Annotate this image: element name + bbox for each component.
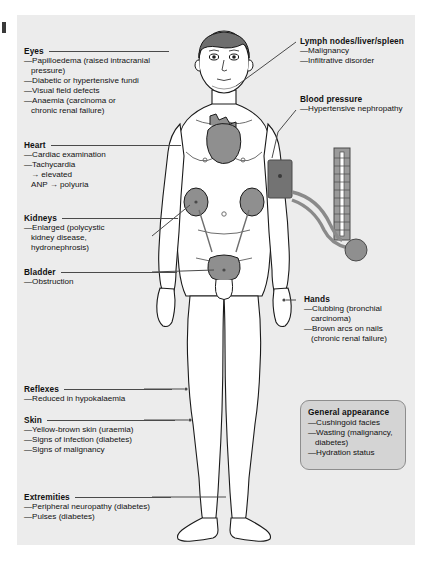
section-blood-pressure: Blood pressure —Hypertensive nephropathy bbox=[300, 94, 429, 114]
heart-item-1: —Tachycardia bbox=[24, 160, 204, 170]
extremities-title: Extremities bbox=[24, 492, 70, 502]
eyes-item-1: pressure) bbox=[24, 66, 204, 76]
kidneys-title: Kidneys bbox=[24, 213, 57, 223]
blood-pressure-title: Blood pressure bbox=[300, 94, 429, 104]
extremities-item-1: —Pulses (diabetes) bbox=[24, 512, 224, 522]
lymph-item-0: —Malignancy bbox=[300, 46, 429, 56]
heart-rule bbox=[51, 145, 181, 146]
kidneys-item-2: hydronephrosis) bbox=[24, 243, 204, 253]
hands-item-3: (chronic renal failure) bbox=[304, 334, 429, 344]
eyes-item-0: —Papilloedema (raised intracranial bbox=[24, 56, 204, 66]
section-hands: Hands —Clubbing (bronchial carcinoma) —B… bbox=[304, 294, 429, 344]
eyes-item-5: chronic renal failure) bbox=[24, 106, 204, 116]
section-eyes: Eyes —Papilloedema (raised intracranial … bbox=[24, 46, 204, 117]
heart-item-0: —Cardiac examination bbox=[24, 150, 204, 160]
eyes-rule bbox=[49, 51, 169, 52]
skin-item-2: —Signs of malignancy bbox=[24, 445, 204, 455]
hands-item-2: —Brown arcs on nails bbox=[304, 324, 429, 334]
general-appearance-title: General appearance bbox=[308, 407, 405, 417]
eyes-item-4: —Anaemia (carcinoma or bbox=[24, 96, 204, 106]
general-appearance-item-2: diabetes) bbox=[308, 438, 405, 448]
hands-item-0: —Clubbing (bronchial bbox=[304, 304, 429, 314]
heart-item-2: → elevated bbox=[24, 170, 204, 180]
section-kidneys: Kidneys —Enlarged (polycystic kidney dis… bbox=[24, 213, 204, 253]
bladder-item-0: —Obstruction bbox=[24, 277, 204, 287]
general-appearance-item-1: —Wasting (malignancy, bbox=[308, 428, 405, 438]
lymph-title: Lymph nodes/liver/spleen bbox=[300, 36, 429, 46]
kidneys-rule bbox=[62, 218, 178, 219]
section-lymph: Lymph nodes/liver/spleen —Malignancy —In… bbox=[300, 36, 429, 66]
section-reflexes: Reflexes —Reduced in hypokalaemia bbox=[24, 384, 204, 404]
skin-item-0: —Yellow-brown skin (uraemia) bbox=[24, 425, 204, 435]
reflexes-rule bbox=[64, 389, 172, 390]
general-appearance-item-0: —Cushingoid facies bbox=[308, 418, 405, 428]
heart-item-3: ANP → polyuria bbox=[24, 180, 204, 190]
lymph-item-1: —Infiltrative disorder bbox=[300, 56, 429, 66]
reflexes-item-0: —Reduced in hypokalaemia bbox=[24, 394, 204, 404]
eyes-item-3: —Visual field defects bbox=[24, 86, 204, 96]
skin-rule bbox=[47, 420, 175, 421]
extremities-item-0: —Peripheral neuropathy (diabetes) bbox=[24, 502, 224, 512]
extremities-rule bbox=[75, 497, 171, 498]
hands-title: Hands bbox=[304, 294, 429, 304]
eyes-title: Eyes bbox=[24, 46, 44, 56]
skin-title: Skin bbox=[24, 415, 42, 425]
general-appearance-item-3: —Hydration status bbox=[308, 448, 405, 458]
section-heart: Heart —Cardiac examination —Tachycardia … bbox=[24, 140, 204, 190]
eyes-item-2: —Diabetic or hypertensive fundi bbox=[24, 76, 204, 86]
general-appearance-box: General appearance —Cushingoid facies —W… bbox=[300, 400, 406, 470]
heart-title: Heart bbox=[24, 140, 46, 150]
kidneys-item-1: kidney disease, bbox=[24, 233, 204, 243]
section-extremities: Extremities —Peripheral neuropathy (diab… bbox=[24, 492, 224, 522]
skin-item-1: —Signs of infection (diabetes) bbox=[24, 435, 204, 445]
bp-bulb bbox=[345, 239, 367, 261]
section-skin: Skin —Yellow-brown skin (uraemia) —Signs… bbox=[24, 415, 204, 455]
kidneys-item-0: —Enlarged (polycystic bbox=[24, 223, 204, 233]
hands-item-1: carcinoma) bbox=[304, 314, 429, 324]
blood-pressure-item-0: —Hypertensive nephropathy bbox=[300, 104, 429, 114]
bladder-title: Bladder bbox=[24, 267, 56, 277]
reflexes-title: Reflexes bbox=[24, 384, 59, 394]
bp-cuff bbox=[268, 160, 292, 198]
bladder-rule bbox=[61, 272, 177, 273]
section-bladder: Bladder —Obstruction bbox=[24, 267, 204, 287]
